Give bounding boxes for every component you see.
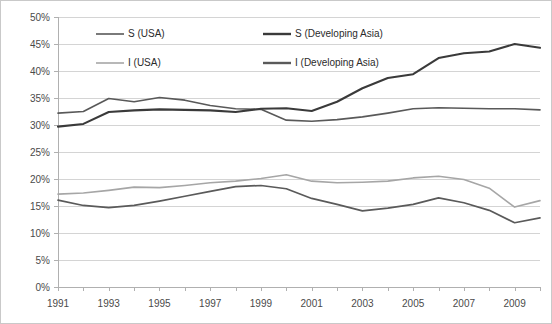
- x-axis-tick-label: 1993: [98, 298, 121, 309]
- y-axis-tick-label: 30%: [30, 120, 50, 131]
- x-axis-tick-label: 2003: [351, 298, 374, 309]
- y-axis-tick-label: 5%: [36, 255, 51, 266]
- y-axis-tick-label: 10%: [30, 228, 50, 239]
- x-axis-tick-label: 2005: [402, 298, 425, 309]
- y-axis-tick-label: 0%: [36, 282, 51, 293]
- legend-label: S (Developing Asia): [295, 28, 383, 39]
- legend-label: I (Developing Asia): [295, 57, 379, 68]
- x-axis-tick-label: 1997: [199, 298, 222, 309]
- chart-container: 0%5%10%15%20%25%30%35%40%45%50%199119931…: [0, 0, 552, 324]
- x-axis-tick-label: 1991: [47, 298, 70, 309]
- x-axis-tick-label: 1995: [148, 298, 171, 309]
- y-axis-tick-label: 50%: [30, 12, 50, 23]
- legend-label: I (USA): [128, 57, 161, 68]
- x-axis-tick-label: 2009: [504, 298, 527, 309]
- y-axis-tick-label: 35%: [30, 93, 50, 104]
- x-axis-tick-label: 2007: [453, 298, 476, 309]
- y-axis-tick-label: 40%: [30, 66, 50, 77]
- series-line: [58, 185, 540, 222]
- line-chart: 0%5%10%15%20%25%30%35%40%45%50%199119931…: [1, 1, 552, 324]
- y-axis-tick-label: 45%: [30, 39, 50, 50]
- y-axis-tick-label: 15%: [30, 201, 50, 212]
- y-axis-tick-label: 20%: [30, 174, 50, 185]
- x-axis-tick-label: 1999: [250, 298, 273, 309]
- x-axis-tick-label: 2001: [301, 298, 324, 309]
- y-axis-tick-label: 25%: [30, 147, 50, 158]
- legend-label: S (USA): [128, 28, 165, 39]
